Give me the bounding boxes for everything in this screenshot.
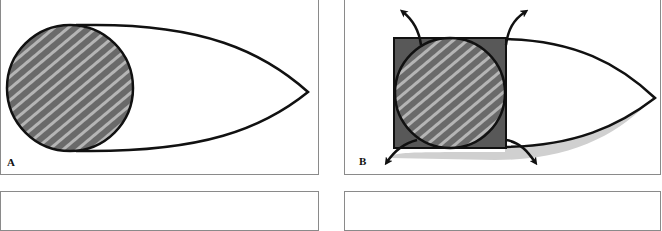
hatched-circle bbox=[7, 25, 133, 151]
panel-b: B bbox=[344, 0, 661, 175]
teardrop-square-diagram-b bbox=[345, 0, 662, 176]
panel-a: A bbox=[0, 0, 319, 175]
teardrop-circle-diagram-a bbox=[1, 0, 320, 176]
panel-c bbox=[0, 191, 319, 231]
panel-label-a: A bbox=[7, 156, 15, 168]
panel-d bbox=[344, 191, 661, 231]
hatched-circle bbox=[395, 38, 505, 148]
panel-label-b: B bbox=[359, 155, 366, 167]
